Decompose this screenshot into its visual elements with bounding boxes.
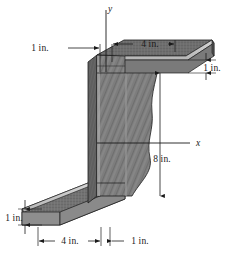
dim-label-top-flange-thickness: 1 in. — [203, 63, 221, 73]
dim-label-top-flange-width: 4 in. — [141, 39, 159, 49]
dim-label-top-left-web-offset: 1 in. — [31, 43, 49, 53]
beam-solid — [22, 40, 214, 225]
dim-label-web-thickness: 1 in. — [131, 236, 149, 246]
dim-label-web-height: 8 in. — [153, 154, 171, 164]
web-left-side-face — [88, 55, 97, 203]
web-plate — [88, 55, 160, 203]
z-section-beam-drawing: y x 1 in. 4 in. 1 in. 8 in. 1 in. 4 in. … — [0, 0, 237, 260]
web-left-seam — [97, 55, 100, 196]
dim-label-bottom-flange-width: 4 in. — [61, 236, 79, 246]
web-front-face — [97, 55, 160, 196]
web-right-seam — [125, 55, 127, 196]
dim-web-thickness — [110, 227, 124, 246]
figure-container: y x 1 in. 4 in. 1 in. 8 in. 1 in. 4 in. … — [0, 0, 237, 260]
top-flange-end-cap — [212, 40, 214, 56]
dim-label-bottom-flange-thickness: 1 in. — [5, 213, 23, 223]
y-axis-label: y — [107, 4, 113, 14]
bottom-flange-front-face — [22, 212, 60, 225]
x-axis-label: x — [195, 138, 201, 148]
